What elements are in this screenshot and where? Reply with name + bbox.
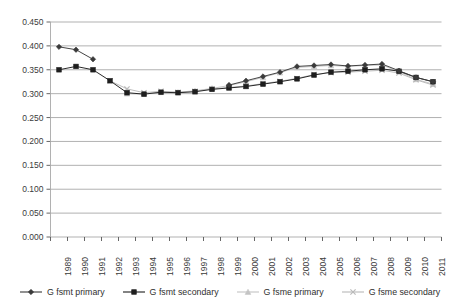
data-point xyxy=(176,90,181,95)
data-point xyxy=(108,78,113,83)
data-point xyxy=(295,77,300,82)
x-axis-tick-label: 1998 xyxy=(216,257,226,276)
x-axis-tick-label: 2007 xyxy=(369,257,379,276)
data-point xyxy=(244,84,249,89)
y-axis-tick-label: 0.400 xyxy=(22,41,44,51)
x-axis-tick-label: 2000 xyxy=(250,257,260,276)
y-axis-tick-label: 0.100 xyxy=(22,184,44,194)
y-axis-tick-labels: 0.0000.0500.1000.1500.2000.2500.3000.350… xyxy=(22,17,44,242)
data-point xyxy=(90,57,95,62)
diamond-marker-icon xyxy=(19,286,43,298)
x-axis-tick-label: 2011 xyxy=(437,258,447,276)
x-axis-tick-label: 2006 xyxy=(352,257,362,276)
x-axis-tick-label: 1990 xyxy=(80,257,90,276)
data-point xyxy=(74,64,79,69)
y-axis-tick-label: 0.050 xyxy=(22,208,44,218)
data-point xyxy=(125,90,130,95)
data-point xyxy=(210,87,215,92)
y-axis-tick-marks xyxy=(47,22,51,237)
data-point xyxy=(142,92,147,97)
x-axis-tick-label: 2002 xyxy=(284,257,294,276)
x-axis-tick-label: 1992 xyxy=(114,257,124,276)
x-axis-tick-label: 2009 xyxy=(403,257,413,276)
data-point xyxy=(91,67,96,72)
x-axis-tick-label: 2008 xyxy=(386,257,396,276)
square-marker-icon xyxy=(122,286,146,298)
legend-item-g-fsme-primary[interactable]: G fsme primary xyxy=(236,286,324,298)
data-point xyxy=(57,67,62,72)
triangle-marker-icon xyxy=(236,286,260,298)
x-marker-icon xyxy=(341,286,365,298)
y-axis-tick-label: 0.450 xyxy=(22,17,44,27)
data-point xyxy=(159,90,164,95)
chart-legend: G fsmt primaryG fsmt secondaryG fsme pri… xyxy=(0,283,459,301)
legend-label: G fsmt secondary xyxy=(150,288,219,297)
data-point xyxy=(346,69,351,74)
legend-item-g-fsmt-secondary[interactable]: G fsmt secondary xyxy=(122,286,219,298)
x-axis-tick-label: 2004 xyxy=(318,257,328,276)
series-g-fsme-secondary xyxy=(107,68,435,96)
x-axis-tick-label: 1997 xyxy=(199,257,209,276)
data-point xyxy=(329,70,334,75)
legend-item-g-fsmt-primary[interactable]: G fsmt primary xyxy=(19,286,105,298)
x-axis-labels: 1989199019911992199319941995199619971998… xyxy=(0,239,459,281)
x-axis-tick-label: 1993 xyxy=(131,257,141,276)
y-axis-tick-label: 0.300 xyxy=(22,89,44,99)
x-axis-tick-label: 2003 xyxy=(301,257,311,276)
x-axis-tick-label: 2001 xyxy=(267,257,277,276)
x-axis-tick-label: 2010 xyxy=(420,257,430,276)
y-axis-tick-label: 0.200 xyxy=(22,136,44,146)
data-point xyxy=(278,79,283,84)
line-chart: 0.0000.0500.1000.1500.2000.2500.3000.350… xyxy=(0,0,459,303)
gridlines xyxy=(51,22,442,237)
data-point xyxy=(363,67,368,72)
x-axis-tick-label: 1996 xyxy=(182,257,192,276)
legend-label: G fsme secondary xyxy=(369,288,440,297)
x-axis-tick-label: 1995 xyxy=(165,257,175,276)
x-axis-tick-label: 1994 xyxy=(148,257,158,276)
data-point xyxy=(261,82,266,87)
data-point xyxy=(380,67,385,72)
legend-label: G fsme primary xyxy=(264,288,324,297)
x-axis-tick-label: 1991 xyxy=(97,257,107,276)
series-g-fsmt-primary xyxy=(56,44,435,88)
x-axis-tick-label: 2005 xyxy=(335,257,345,276)
data-point xyxy=(312,73,317,78)
y-axis-tick-label: 0.150 xyxy=(22,160,44,170)
data-point xyxy=(56,44,61,49)
y-axis-tick-label: 0.250 xyxy=(22,113,44,123)
legend-label: G fsmt primary xyxy=(47,288,105,297)
data-point xyxy=(193,89,198,94)
data-series-layer xyxy=(56,44,436,96)
y-axis-tick-label: 0.350 xyxy=(22,65,44,75)
x-axis-tick-label: 1989 xyxy=(63,257,73,276)
x-axis-tick-label: 1999 xyxy=(233,257,243,276)
legend-item-g-fsme-secondary[interactable]: G fsme secondary xyxy=(341,286,440,298)
data-point xyxy=(73,47,78,52)
